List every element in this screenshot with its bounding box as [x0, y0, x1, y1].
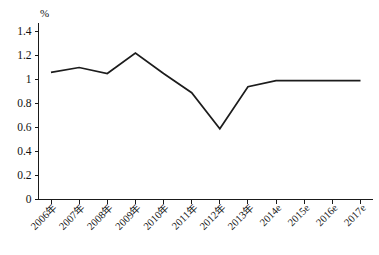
x-axis-tick-label: 2016e	[314, 202, 340, 228]
chart-canvas: 00.20.40.60.811.21.4 2006年2007年2008年2009…	[0, 0, 379, 255]
y-axis-tick-label: 1.2	[17, 49, 32, 61]
y-axis-tick-label: 0	[26, 193, 32, 205]
x-axis-tick-label: 2010年	[141, 201, 171, 231]
y-axis-tick-label: 0.8	[17, 97, 32, 109]
line-chart: 00.20.40.60.811.21.4 2006年2007年2008年2009…	[0, 0, 379, 255]
x-axis-tick-label: 2013年	[225, 201, 255, 231]
data-series-line	[51, 53, 361, 129]
x-axis-tick-label: 2009年	[112, 201, 142, 231]
y-axis-unit-label: %	[40, 7, 49, 19]
x-axis-tick-label: 2011年	[169, 201, 199, 231]
x-axis-tick-label: 2014e	[258, 202, 284, 228]
y-axis-tick-label: 1	[26, 73, 32, 85]
y-axis-tick-marks	[35, 32, 39, 200]
y-axis-tick-label: 0.6	[17, 121, 32, 133]
x-axis-tick-labels: 2006年2007年2008年2009年2010年2011年2012年2013年…	[28, 201, 368, 231]
x-axis-tick-label: 2012年	[197, 201, 227, 231]
x-axis-tick-label: 2007年	[56, 201, 86, 231]
x-axis-tick-label: 2015e	[286, 202, 312, 228]
x-axis-tick-label: 2006年	[28, 201, 58, 231]
y-axis-tick-label: 0.4	[17, 145, 32, 157]
x-axis-tick-label: 2008年	[84, 201, 114, 231]
x-axis-tick-marks	[51, 200, 361, 204]
y-axis-tick-labels: 00.20.40.60.811.21.4	[17, 25, 32, 205]
x-axis-tick-label: 2017e	[342, 202, 368, 228]
y-axis-tick-label: 1.4	[17, 25, 32, 37]
y-axis-tick-label: 0.2	[17, 169, 32, 181]
